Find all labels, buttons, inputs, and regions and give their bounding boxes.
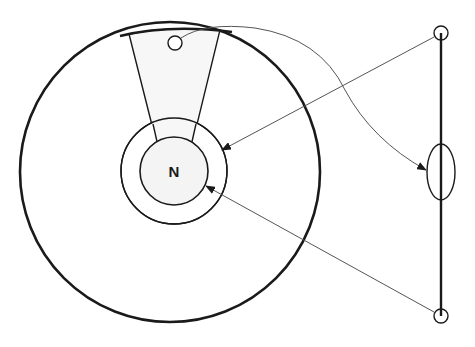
arrow-bottom-to-inner-circle [206, 186, 434, 312]
center-label: N [169, 163, 180, 180]
arrow-top-to-outer-ring [222, 37, 434, 150]
small-hole [168, 36, 182, 50]
diagram-canvas: N [0, 0, 475, 347]
